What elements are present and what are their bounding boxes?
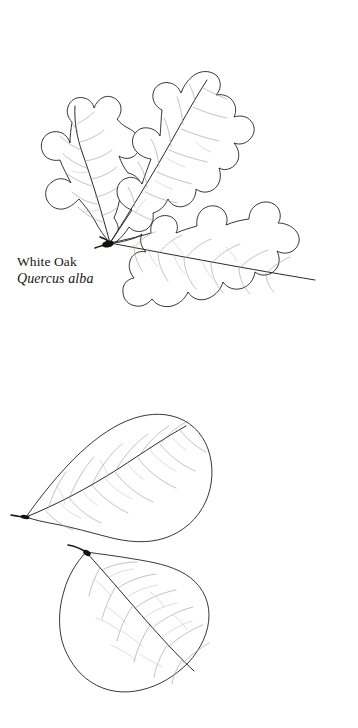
arkansas-oak-drawing <box>0 360 358 728</box>
scientific-name-white-oak: Quercus alba <box>17 270 94 287</box>
arkansas-oak-leaf-upper <box>11 414 212 541</box>
common-name-white-oak: White Oak <box>17 254 94 270</box>
figure-white-oak: White Oak Quercus alba <box>0 0 358 340</box>
arkansas-oak-leaf-lower <box>60 545 209 692</box>
caption-white-oak: White Oak Quercus alba <box>17 254 94 288</box>
petiole-stem <box>68 545 86 552</box>
leaf-outline <box>26 414 212 541</box>
leaf-outline <box>60 552 209 692</box>
white-oak-drawing <box>0 0 358 340</box>
figure-arkansas-oak: Arkansas Oak Quercus arkansana <box>0 360 358 728</box>
leaf-vein <box>266 273 274 292</box>
illustration-plate: White Oak Quercus alba <box>0 0 358 728</box>
